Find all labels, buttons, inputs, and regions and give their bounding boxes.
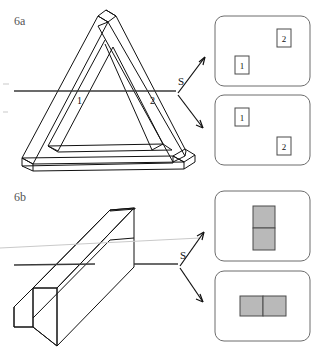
diagram-canvas: S 1 2 2 1 1 2	[0, 0, 320, 355]
panel-a-bottom-frame[interactable]	[215, 95, 310, 165]
beam-faint-guide	[0, 238, 200, 248]
triangle-bottom-left-endcap	[22, 158, 33, 171]
triangle-mark-2: 2	[150, 95, 155, 106]
beam-end-bottom-edge	[33, 327, 57, 346]
beam-front-face	[57, 208, 134, 346]
triangle-beam-bottom-front-face	[22, 156, 173, 166]
triangle-apex-top-edge	[106, 10, 186, 151]
panel-a-interpretation-top[interactable]: 2 1	[215, 16, 310, 86]
triangle-right-corner-block-side	[184, 155, 195, 169]
triangle-mark-1: 1	[77, 95, 82, 106]
beam-end-face-left-square	[14, 288, 33, 327]
panel-b-top-cell-lower	[253, 228, 275, 250]
beam-top-face	[33, 208, 134, 288]
arrow-a-down	[178, 95, 203, 128]
panel-a-top-box-1-label: 1	[240, 61, 245, 71]
beam-internal-divider-right	[110, 238, 134, 240]
section-line-b-left	[14, 264, 95, 265]
panel-b-bottom-cell-right	[263, 296, 286, 316]
figure-root: 6a 6b	[0, 0, 320, 355]
panel-a-interpretation-bottom[interactable]: 1 2	[215, 95, 310, 165]
penrose-triangle-group: S 1 2	[3, 10, 205, 171]
panel-a-top-box-2-label: 2	[282, 34, 287, 44]
triangle-beam-bottom-top-face	[48, 144, 172, 152]
figure-label-6a: 6a	[14, 14, 25, 29]
figure-label-6b: 6b	[14, 190, 26, 205]
panel-b-interpretation-top[interactable]	[215, 191, 310, 261]
arrow-b-down-head	[196, 294, 203, 302]
triangle-apex-cap	[98, 10, 116, 22]
triangle-right-corner-edge	[185, 151, 186, 156]
panel-b-top-cell-upper	[253, 206, 275, 228]
triangle-beam-left-outer	[22, 16, 108, 164]
beam-end-face-left-edges	[14, 307, 33, 327]
arrow-b-down	[180, 268, 203, 302]
panel-a-top-frame[interactable]	[215, 16, 310, 86]
beam-group: S	[0, 208, 204, 346]
beam-internal-divider-top	[33, 210, 110, 288]
beam-internal-divider-mid	[33, 240, 110, 318]
panel-a-bottom-box-1-label: 1	[240, 113, 245, 123]
panel-b-bottom-cell-left	[240, 296, 263, 316]
panel-b-interpretation-bottom[interactable]	[215, 271, 310, 341]
panel-a-bottom-box-2-label: 2	[282, 142, 287, 152]
triangle-beam-right-outer	[98, 22, 185, 162]
